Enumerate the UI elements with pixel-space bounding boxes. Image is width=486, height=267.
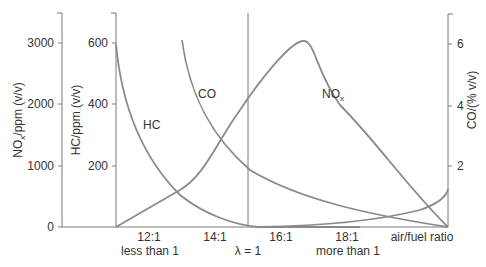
hc-tick-400: 400 [88, 97, 108, 111]
hc-lean-curve [260, 189, 448, 227]
hc-curve [116, 44, 360, 227]
nox-curve [116, 41, 448, 227]
hc-tick-200: 200 [88, 159, 108, 173]
x-tick-14: 14:1 [203, 230, 227, 244]
lean-region-label: more than 1 [316, 244, 380, 258]
nox-tick-1000: 1000 [27, 159, 54, 173]
hc-curve-label: HC [143, 118, 161, 132]
hc-tick-600: 600 [88, 36, 108, 50]
hc-axis-label: HC/ppm (v/v) [69, 85, 83, 156]
co-tick-2: 2 [457, 159, 464, 173]
co-axis: 6 4 2 CO/(% v/v) [448, 14, 479, 227]
nox-curve-label: NOx [322, 87, 344, 103]
co-axis-label: CO/(% v/v) [465, 71, 479, 130]
lambda-label: λ = 1 [235, 244, 262, 258]
co-tick-4: 4 [457, 99, 464, 113]
x-tick-18: 18:1 [335, 230, 359, 244]
co-curve [182, 40, 448, 227]
nox-axis-label: NOx/ppm (v/v) [11, 82, 27, 157]
x-axis-label: air/fuel ratio [391, 230, 454, 244]
co-tick-6: 6 [457, 37, 464, 51]
x-tick-12: 12:1 [137, 230, 161, 244]
emissions-chart: 3000 2000 1000 0 NOx/ppm (v/v) 600 400 2… [0, 0, 486, 267]
nox-tick-3000: 3000 [27, 36, 54, 50]
rich-region-label: less than 1 [121, 244, 179, 258]
nox-tick-0: 0 [47, 220, 54, 234]
x-tick-16: 16:1 [269, 230, 293, 244]
hc-axis: 600 400 200 HC/ppm (v/v) [69, 13, 116, 227]
co-curve-label: CO [198, 87, 216, 101]
nox-tick-2000: 2000 [27, 97, 54, 111]
